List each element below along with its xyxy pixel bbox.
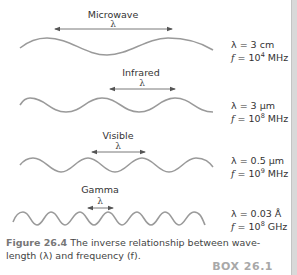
box-label: BOX 26.1 — [212, 260, 273, 273]
infrared-label: Infrared — [122, 67, 159, 78]
microwave-wavelength-value: λ = 3 cm — [231, 39, 288, 52]
infrared-wavelength-value: λ = 3 μm — [231, 100, 288, 113]
visible-label: Visible — [102, 130, 133, 141]
gamma-frequency-value: f = 108 GHz — [231, 221, 287, 234]
microwave-values: λ = 3 cm f = 104 MHz — [231, 39, 288, 64]
visible-frequency-value: f = 109 MHz — [231, 168, 288, 181]
gamma-wave — [13, 212, 205, 225]
page-edge-divider — [291, 0, 297, 275]
gamma-values: λ = 0.03 Å f = 108 GHz — [231, 208, 287, 233]
infrared-lambda-symbol: λ — [139, 78, 145, 88]
infrared-values: λ = 3 μm f = 108 MHz — [231, 100, 288, 125]
gamma-lambda-symbol: λ — [97, 196, 103, 206]
visible-wavelength-value: λ = 0.5 μm — [231, 155, 288, 168]
figure-number: Figure 26.4 — [6, 237, 67, 248]
visible-lambda-symbol: λ — [115, 141, 121, 151]
gamma-label: Gamma — [81, 184, 119, 195]
microwave-wave — [20, 38, 213, 55]
visible-values: λ = 0.5 μm f = 109 MHz — [231, 155, 288, 180]
gamma-wavelength-value: λ = 0.03 Å — [231, 208, 287, 221]
microwave-lambda-symbol: λ — [110, 19, 116, 29]
infrared-frequency-value: f = 108 MHz — [231, 113, 288, 126]
figure-panel: Microwave λ λ = 3 cm f = 104 MHz Infrare… — [0, 0, 291, 275]
infrared-wave — [20, 98, 213, 112]
microwave-frequency-value: f = 104 MHz — [231, 52, 288, 65]
visible-wave — [20, 158, 213, 172]
figure-caption: Figure 26.4 The inverse relationship bet… — [6, 236, 276, 262]
